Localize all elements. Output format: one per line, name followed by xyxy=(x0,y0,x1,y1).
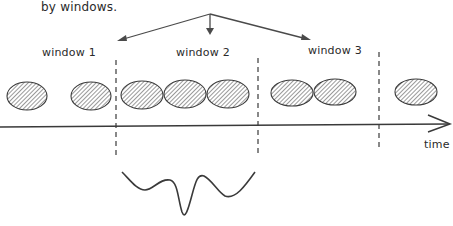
arrowheads xyxy=(117,28,311,41)
event-1 xyxy=(7,82,47,110)
fanout-arrows xyxy=(120,14,307,40)
window-3-label: window 3 xyxy=(308,44,362,57)
arrow-to-window-1 xyxy=(120,14,210,40)
event-8 xyxy=(395,79,437,105)
arrowhead-left-icon xyxy=(117,35,127,41)
event-7 xyxy=(314,79,356,105)
arrow-to-window-3 xyxy=(210,14,307,39)
windowing-diagram xyxy=(0,0,453,226)
time-axis-line xyxy=(0,124,449,127)
time-axis xyxy=(0,115,450,132)
time-axis-label: time xyxy=(424,138,450,151)
event-5 xyxy=(207,80,249,108)
window-2-label: window 2 xyxy=(176,46,230,59)
events xyxy=(7,79,437,110)
window-2-waveform xyxy=(122,172,255,215)
event-6 xyxy=(271,80,313,106)
event-4 xyxy=(164,80,206,108)
event-3 xyxy=(121,81,163,109)
arrowhead-right-icon xyxy=(301,34,311,40)
window-1-label: window 1 xyxy=(42,46,96,59)
caption-text: by windows. xyxy=(41,0,117,14)
event-2 xyxy=(71,82,111,110)
arrowhead-down-icon xyxy=(206,28,214,35)
